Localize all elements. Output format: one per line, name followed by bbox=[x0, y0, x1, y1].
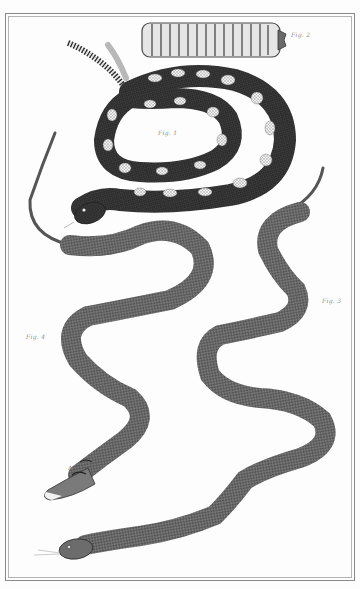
snake-illustration bbox=[0, 0, 360, 589]
fig2-label: Fig. 2 bbox=[291, 31, 310, 38]
engraving-plate: Fig. 2 Fig. 1 Fig. 3 Fig. 4 A bbox=[0, 0, 360, 589]
fig2-rattle bbox=[142, 23, 286, 57]
head-marker-a: A bbox=[68, 464, 72, 471]
fig4-snake bbox=[29, 133, 204, 500]
fig4-label: Fig. 4 bbox=[26, 333, 45, 340]
fig1-label: Fig. 1 bbox=[158, 129, 177, 136]
fig3-label: Fig. 3 bbox=[322, 297, 341, 304]
fig1-tail bbox=[68, 43, 128, 92]
fig1-coiled-rattlesnake bbox=[64, 69, 285, 228]
